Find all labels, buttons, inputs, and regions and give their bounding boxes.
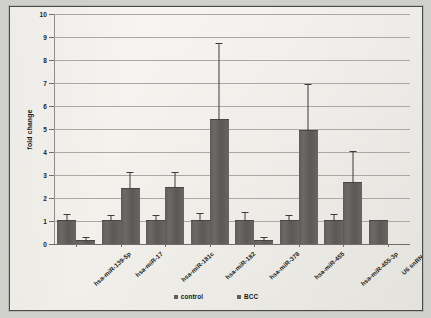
bar-BCC (121, 188, 140, 244)
error-bar-cap (197, 213, 204, 214)
bar-slot (121, 14, 140, 244)
x-tick (254, 244, 255, 247)
error-bar (111, 216, 112, 221)
legend-item-control: control (174, 293, 203, 300)
bar-slot (210, 14, 229, 244)
error-bar-cap (171, 172, 178, 173)
y-tick-label-0: 0 (43, 241, 47, 248)
bar-group (366, 14, 411, 244)
bar-slot (280, 14, 299, 244)
bar-control (57, 220, 76, 244)
scanned-figure-frame: fold change 012345678910 hsa-miR-139-5ph… (9, 6, 423, 311)
bar-BCC (165, 187, 184, 244)
gridline-0 (54, 244, 410, 245)
bar-group (99, 14, 144, 244)
error-bar (289, 216, 290, 221)
x-tick (388, 244, 389, 247)
error-bar-cap (82, 237, 89, 238)
error-bar-cap (330, 214, 337, 215)
bar-slot (57, 14, 76, 244)
bar-slot (388, 14, 407, 244)
error-bar (308, 85, 309, 131)
y-tick-label-2: 2 (43, 195, 47, 202)
error-bar-cap (241, 212, 248, 213)
error-bar (66, 215, 67, 221)
bar-BCC (299, 130, 318, 244)
y-tick-label-5: 5 (43, 126, 47, 133)
x-tick (165, 244, 166, 247)
legend-item-bcc: BCC (237, 293, 258, 300)
x-tick (121, 244, 122, 247)
bar-slot (165, 14, 184, 244)
error-bar-cap (127, 172, 134, 173)
x-tick (210, 244, 211, 247)
bar-slot (343, 14, 362, 244)
bar-slot (191, 14, 210, 244)
error-bar (130, 173, 131, 189)
bar-BCC (210, 119, 229, 244)
y-tick-label-4: 4 (43, 149, 47, 156)
bar-BCC (343, 182, 362, 244)
y-tick-label-1: 1 (43, 218, 47, 225)
error-bar (200, 214, 201, 221)
error-bar (352, 152, 353, 183)
x-axis-label: U6 snRNA (400, 250, 423, 276)
error-bar-cap (286, 215, 293, 216)
legend-label: BCC (244, 293, 258, 300)
x-axis-label: hsa-miR-182 (223, 250, 256, 281)
error-bar (174, 173, 175, 188)
bar-group (232, 14, 277, 244)
bar-slot (254, 14, 273, 244)
plot-area: 012345678910 (54, 14, 410, 244)
error-bar (155, 216, 156, 221)
bar-slot (324, 14, 343, 244)
legend-swatch-icon (237, 295, 241, 299)
error-bar (244, 213, 245, 221)
error-bar-cap (260, 237, 267, 238)
error-bar (333, 215, 334, 221)
bar-slot (76, 14, 95, 244)
bar-control (102, 220, 121, 244)
error-bar-cap (349, 151, 356, 152)
y-tick-label-3: 3 (43, 172, 47, 179)
bar-slot (102, 14, 121, 244)
y-tick-label-6: 6 (43, 103, 47, 110)
y-tick-label-9: 9 (43, 34, 47, 41)
x-axis-label: hsa-miR-378 (268, 250, 301, 281)
bar-control (235, 220, 254, 244)
error-bar (219, 44, 220, 120)
y-axis-title: fold change (24, 14, 36, 244)
bar-slot (369, 14, 388, 244)
y-tick-label-10: 10 (40, 11, 47, 18)
x-tick (343, 244, 344, 247)
legend-swatch-icon (174, 295, 178, 299)
bar-group (188, 14, 233, 244)
error-bar-cap (216, 43, 223, 44)
x-axis-label: hsa-miR-455-3p (359, 250, 399, 287)
chart-legend: controlBCC (10, 293, 422, 300)
bar-control (191, 220, 210, 244)
bar-group (321, 14, 366, 244)
bar-control (369, 220, 388, 244)
error-bar-cap (152, 215, 159, 216)
bar-group (54, 14, 99, 244)
x-axis-label: hsa-miR-139-5p (92, 250, 132, 287)
bar-control (280, 220, 299, 244)
error-bar (85, 238, 86, 240)
x-axis-label: hsa-miR-181c (180, 250, 215, 283)
bar-slot (299, 14, 318, 244)
y-tick-label-8: 8 (43, 57, 47, 64)
y-axis-title-text: fold change (27, 109, 34, 149)
error-bar-cap (63, 214, 70, 215)
bar-slot (146, 14, 165, 244)
bar-group (143, 14, 188, 244)
bar-group (277, 14, 322, 244)
error-bar-cap (108, 215, 115, 216)
error-bar (263, 238, 264, 240)
bar-slot (235, 14, 254, 244)
x-axis-label: hsa-miR-455 (312, 250, 345, 281)
x-tick (299, 244, 300, 247)
legend-label: control (181, 293, 203, 300)
bar-control (146, 220, 165, 244)
x-axis-label: hsa-miR-17 (134, 250, 164, 278)
